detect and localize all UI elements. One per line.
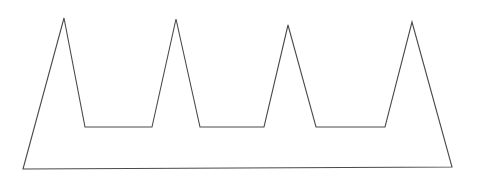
figure-canvas: [0, 0, 483, 180]
crown-outline-figure: [0, 0, 483, 180]
crown-outline-path: [23, 18, 452, 169]
